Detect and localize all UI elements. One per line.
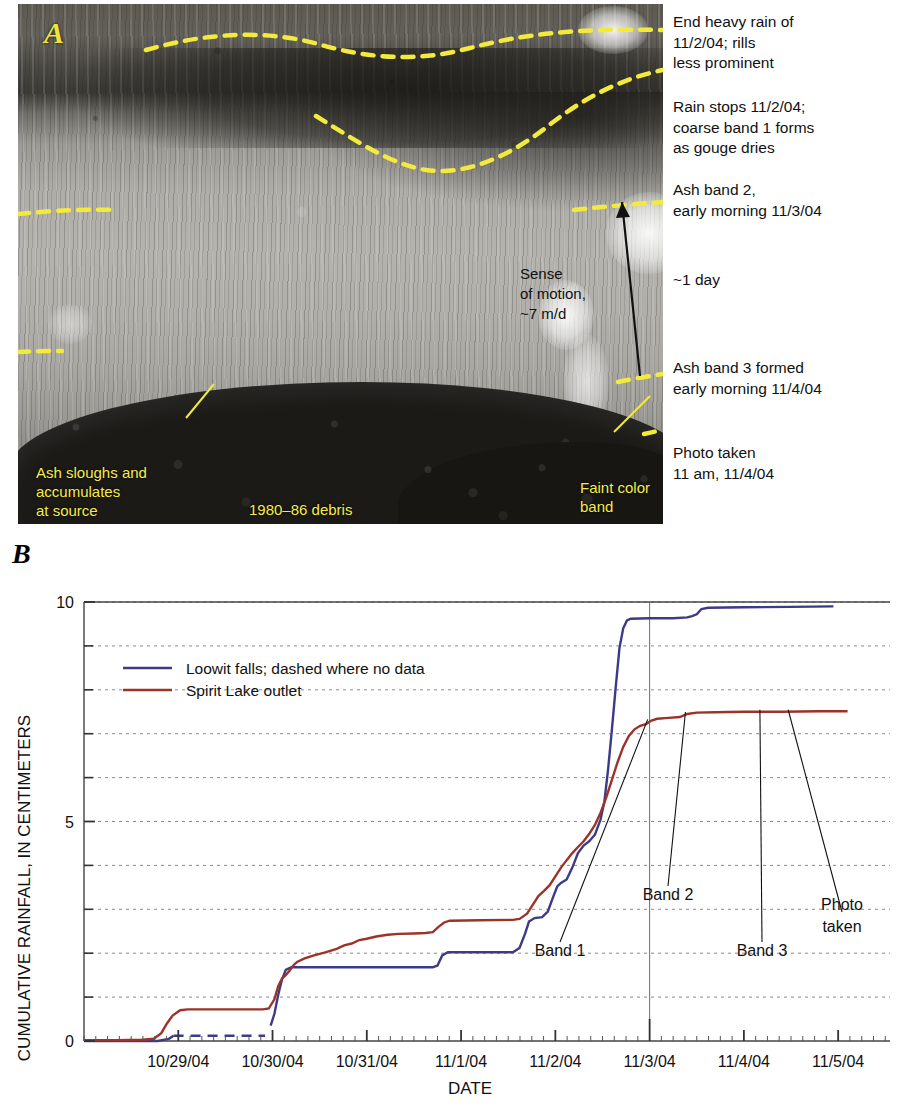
- dashed-band-coarse-1: [316, 70, 663, 171]
- chart-annotations: Band 1Band 2Band 3Phototaken: [535, 710, 863, 959]
- sense-of-motion-note: Sense of motion, ~7 m/d: [520, 264, 586, 324]
- dashed-band-3-left: [18, 351, 62, 352]
- dashed-band-2-right: [574, 202, 663, 210]
- y-tick-label: 5: [65, 814, 74, 831]
- figure-page: A Sense of motion, ~7 m/d Ash sloughs an…: [0, 0, 902, 1104]
- x-tick-label: 11/1/04: [435, 1053, 487, 1070]
- side-note-ash-band-3: Ash band 3 formed early morning 11/4/04: [673, 358, 822, 399]
- legend-label: Loowit falls; dashed where no data: [186, 660, 425, 677]
- debris-note: 1980–86 debris: [249, 500, 352, 519]
- axis-tick-labels: 051010/29/0410/30/0410/31/0411/1/0411/2/…: [56, 594, 864, 1070]
- y-tick-label: 0: [65, 1033, 74, 1050]
- x-tick-label: 11/3/04: [624, 1053, 676, 1070]
- panel-letter-a: A: [44, 16, 64, 50]
- annotation-leader: [560, 719, 648, 942]
- panel-b-chart: B 051010/29/0410/30/0410/31/0411/1/0411/…: [0, 528, 902, 1104]
- side-note-ash-band-2: Ash band 2, early morning 11/3/04: [673, 180, 822, 221]
- annotation-label: Band 1: [535, 942, 586, 959]
- x-tick-label: 11/5/04: [812, 1053, 864, 1070]
- leader-ash-sloughs: [186, 384, 214, 418]
- y-tick-label: 10: [56, 594, 74, 611]
- annotation-leader: [760, 710, 762, 942]
- chart-legend: Loowit falls; dashed where no dataSpirit…: [123, 660, 425, 699]
- rainfall-chart: 051010/29/0410/30/0410/31/0411/1/0411/2/…: [0, 528, 902, 1104]
- sense-of-motion-arrow-shaft: [622, 202, 640, 376]
- annotation-label: Band 2: [643, 886, 694, 903]
- y-axis-title: CUMULATIVE RAINFALL, IN CENTIMETERS: [15, 715, 34, 1061]
- ash-sloughs-note: Ash sloughs and accumulates at source: [36, 463, 147, 520]
- series-line: [84, 711, 848, 1040]
- dashed-band-photo-taken: [644, 430, 663, 434]
- x-tick-label: 10/30/04: [241, 1053, 303, 1070]
- x-tick-label: 11/2/04: [529, 1053, 581, 1070]
- side-note-end-heavy-rain: End heavy rain of 11/2/04; rills less pr…: [673, 12, 794, 74]
- legend-label: Spirit Lake outlet: [186, 682, 302, 699]
- x-tick-label: 10/29/04: [147, 1053, 209, 1070]
- annotation-leader: [788, 710, 842, 912]
- leader-faint-color-band: [614, 396, 650, 432]
- panel-a-photograph: A Sense of motion, ~7 m/d Ash sloughs an…: [0, 0, 902, 528]
- x-axis-title: DATE: [448, 1079, 492, 1098]
- x-tick-label: 11/4/04: [718, 1053, 770, 1070]
- side-note-photo-taken: Photo taken 11 am, 11/4/04: [673, 443, 774, 484]
- annotation-label: Photo: [821, 896, 863, 913]
- annotation-label: Band 3: [737, 942, 788, 959]
- dashed-band-top: [146, 30, 663, 57]
- x-tick-label: 10/31/04: [336, 1053, 398, 1070]
- faint-color-band-note: Faint color band: [580, 478, 650, 516]
- side-note-rain-stops: Rain stops 11/2/04; coarse band 1 forms …: [673, 97, 814, 159]
- dashed-band-2-left: [18, 210, 114, 214]
- annotation-leader: [668, 712, 685, 886]
- annotation-label: taken: [822, 918, 861, 935]
- side-note-one-day: ~1 day: [673, 270, 720, 291]
